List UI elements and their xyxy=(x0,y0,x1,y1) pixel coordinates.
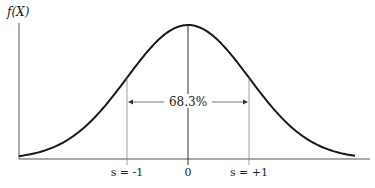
normal-distribution-chart: f(X) 68.3% s = -1 0 s = +1 xyxy=(0,0,375,188)
tick-label-zero: 0 xyxy=(185,166,192,179)
tick-label-plus-one: s = +1 xyxy=(230,166,268,179)
arrowhead-left-icon xyxy=(128,100,133,105)
tick-label-minus-one: s = -1 xyxy=(111,166,144,179)
arrowhead-right-icon xyxy=(243,100,248,105)
normal-curve xyxy=(19,25,355,156)
span-percent-label: 68.3% xyxy=(169,95,207,109)
y-axis-label: f(X) xyxy=(6,5,30,19)
